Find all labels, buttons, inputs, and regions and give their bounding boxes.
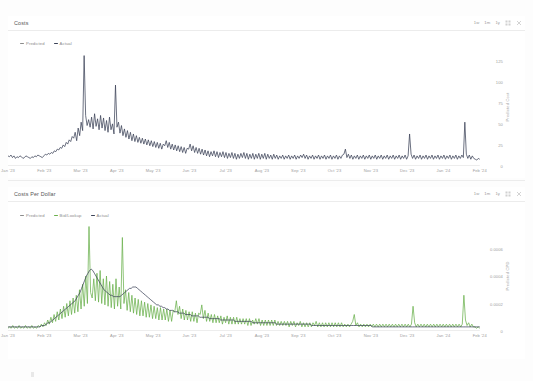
x-tick-label: Mar '23: [73, 333, 87, 338]
panel-divider: [8, 180, 525, 181]
panel-cpd-header: Costs Per Dollar 1w 1m 1y: [8, 187, 525, 202]
x-tick-label: Feb '24: [473, 168, 487, 173]
legend-label-actual: Actual: [97, 213, 109, 218]
cpd-chart-svg: [8, 221, 525, 331]
x-tick-label: Feb '23: [37, 333, 51, 338]
x-tick-label: Jan '24: [437, 333, 451, 338]
x-tick-label: May '23: [146, 333, 161, 338]
x-tick-label: Oct '23: [328, 168, 342, 173]
panel-cpd-controls: 1w 1m 1y: [474, 191, 522, 197]
legend-label-bid-lookup: Bid/Lookup: [60, 213, 82, 218]
legend-item-predicted[interactable]: Predicted: [20, 213, 45, 218]
series-line-actual: [8, 56, 480, 161]
legend-swatch-predicted: [20, 43, 24, 44]
panel-costs-header: Costs 1w 1m 1y: [8, 16, 525, 31]
panel-costs-controls: 1w 1m 1y: [474, 20, 522, 26]
legend-item-actual[interactable]: Actual: [91, 213, 109, 218]
x-tick-label: Feb '23: [37, 168, 51, 173]
x-tick-label: Aug '23: [255, 168, 269, 173]
cpd-plot-area[interactable]: Predicted CPD 00.00020.00040.0006: [8, 221, 525, 331]
range-button-1w[interactable]: 1w: [474, 191, 480, 197]
costs-plot-area[interactable]: Predicted Cost 0255075100125: [8, 48, 525, 166]
legend-swatch-bid-lookup: [54, 215, 58, 216]
x-tick-label: Oct '23: [328, 333, 342, 338]
x-tick-label: Dec '23: [400, 168, 414, 173]
close-icon[interactable]: [516, 20, 522, 26]
grid-icon[interactable]: [505, 191, 511, 197]
legend-item-predicted[interactable]: Predicted: [20, 41, 45, 46]
x-tick-label: Jun '23: [183, 333, 197, 338]
x-tick-label: May '23: [146, 168, 161, 173]
x-tick-label: Sep '23: [291, 168, 305, 173]
legend-label-predicted: Predicted: [26, 41, 45, 46]
close-icon[interactable]: [516, 191, 522, 197]
panel-cpd-legend: Predicted Bid/Lookup Actual: [20, 213, 109, 218]
x-tick-label: Jul '23: [220, 168, 232, 173]
legend-swatch-actual: [91, 215, 95, 216]
panel-costs-legend: Predicted Actual: [20, 41, 72, 46]
range-button-1y[interactable]: 1y: [495, 20, 500, 26]
panel-costs-title: Costs: [14, 20, 29, 26]
x-tick-label: Dec '23: [400, 333, 414, 338]
legend-swatch-predicted: [20, 215, 24, 216]
x-tick-label: Jun '23: [183, 168, 197, 173]
legend-label-actual: Actual: [60, 41, 72, 46]
costs-x-axis: Jan '23Feb '23Mar '23Apr '23May '23Jun '…: [8, 168, 525, 177]
costs-chart-svg: [8, 48, 525, 166]
x-tick-label: Apr '23: [110, 333, 124, 338]
range-button-1m[interactable]: 1m: [484, 20, 490, 26]
x-tick-label: Sep '23: [291, 333, 305, 338]
x-tick-label: Mar '23: [73, 168, 87, 173]
panel-cpd-title: Costs Per Dollar: [14, 191, 56, 197]
x-tick-label: Jan '23: [1, 333, 15, 338]
x-tick-label: Jul '23: [220, 333, 232, 338]
x-tick-label: Feb '24: [473, 333, 487, 338]
legend-label-predicted: Predicted: [26, 213, 45, 218]
x-tick-label: Jan '23: [1, 168, 15, 173]
range-button-1w[interactable]: 1w: [474, 20, 480, 26]
x-tick-label: Apr '23: [110, 168, 124, 173]
panel-costs-per-dollar: Costs Per Dollar 1w 1m 1y Predicted Bi: [8, 187, 525, 359]
footer-mark: [31, 372, 34, 377]
legend-item-actual[interactable]: Actual: [54, 41, 72, 46]
cpd-x-axis: Jan '23Feb '23Mar '23Apr '23May '23Jun '…: [8, 333, 525, 342]
legend-item-bid-lookup[interactable]: Bid/Lookup: [54, 213, 82, 218]
grid-icon[interactable]: [505, 20, 511, 26]
x-tick-label: Nov '23: [364, 333, 378, 338]
panel-costs: Costs 1w 1m 1y Predicted Actual: [8, 16, 525, 178]
legend-swatch-actual: [54, 43, 58, 44]
range-button-1m[interactable]: 1m: [484, 191, 490, 197]
x-tick-label: Jan '24: [437, 168, 451, 173]
x-tick-label: Aug '23: [255, 333, 269, 338]
dashboard-root: Costs 1w 1m 1y Predicted Actual: [0, 0, 533, 381]
range-button-1y[interactable]: 1y: [495, 191, 500, 197]
x-tick-label: Nov '23: [364, 168, 378, 173]
series-line-bid-lookup: [8, 227, 480, 329]
